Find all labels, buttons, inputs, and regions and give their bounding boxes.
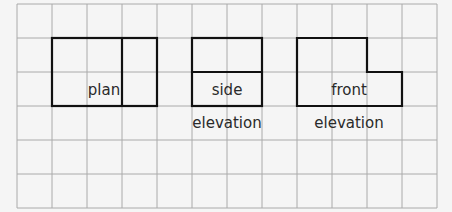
orthographic-views-diagram: plan side elevation front elevation [0,0,452,212]
side-elevation-label-line1: side [212,81,243,99]
front-elevation-view: front elevation [297,38,402,132]
plan-label: plan [88,81,120,99]
side-elevation-label-line2: elevation [192,114,261,132]
front-elevation-label-line1: front [331,81,367,99]
front-elevation-label-line2: elevation [314,114,383,132]
